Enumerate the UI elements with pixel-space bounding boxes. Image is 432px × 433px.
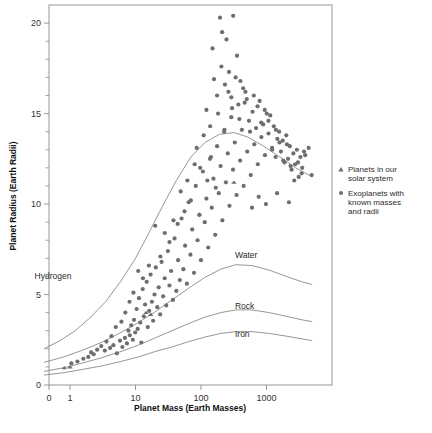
exoplanet-point	[236, 102, 240, 106]
exoplanet-point	[114, 325, 118, 329]
exoplanet-point	[297, 175, 301, 179]
exoplanet-point	[179, 189, 183, 193]
exoplanet-point	[209, 155, 213, 159]
y-tick-label: 15	[31, 109, 41, 119]
exoplanet-point	[287, 200, 291, 204]
y-tick-label: 0	[36, 380, 41, 390]
exoplanet-point	[303, 153, 307, 157]
exoplanet-point	[150, 300, 154, 304]
exoplanet-point	[203, 220, 207, 224]
exoplanet-point	[272, 124, 276, 128]
exoplanet-point	[147, 309, 151, 313]
tick-labels: 0510152001101001000	[31, 18, 277, 403]
legend-circle-icon	[339, 191, 343, 195]
exoplanet-point	[126, 329, 130, 333]
exoplanet-point	[167, 283, 171, 287]
exoplanet-point	[125, 341, 129, 345]
exoplanet-point	[266, 131, 270, 135]
exoplanet-point	[252, 142, 256, 146]
exoplanet-point	[222, 128, 226, 132]
exoplanet-point	[75, 359, 79, 363]
exoplanet-point	[220, 218, 224, 222]
x-tick-label: 100	[193, 393, 208, 403]
exoplanet-point	[224, 37, 228, 41]
exoplanet-point	[243, 90, 247, 94]
exoplanet-point	[154, 265, 158, 269]
exoplanet-point	[158, 254, 162, 258]
exoplanet-point	[204, 108, 208, 112]
exoplanet-point	[298, 155, 302, 159]
exoplanet-point	[270, 148, 274, 152]
exoplanet-point	[216, 111, 220, 115]
exoplanet-point	[295, 148, 299, 152]
plot-frame	[49, 5, 332, 385]
x-tick-label: 1000	[256, 393, 276, 403]
exoplanet-point	[274, 128, 278, 132]
exoplanet-point	[115, 351, 119, 355]
exoplanet-point	[291, 151, 295, 155]
exoplanet-point	[231, 14, 235, 18]
exoplanet-point	[212, 77, 216, 81]
exoplanet-point	[215, 93, 219, 97]
exoplanet-point	[258, 99, 262, 103]
exoplanet-point	[224, 180, 228, 184]
exoplanet-point	[198, 166, 202, 170]
exoplanet-point	[123, 311, 127, 315]
exoplanet-point	[263, 153, 267, 157]
exoplanet-point	[264, 202, 268, 206]
exoplanet-point	[275, 191, 279, 195]
exoplanet-point	[208, 124, 212, 128]
exoplanet-point	[265, 111, 269, 115]
exoplanet-point	[176, 258, 180, 262]
exoplanet-point	[245, 97, 249, 101]
exoplanet-point	[300, 166, 304, 170]
exoplanet-point	[119, 320, 123, 324]
exoplanet-point	[131, 338, 135, 342]
exoplanet-point	[195, 146, 199, 150]
exoplanet-point	[242, 184, 246, 188]
exoplanet-point	[159, 260, 163, 264]
exoplanet-point	[128, 333, 132, 337]
exoplanet-point	[133, 330, 137, 334]
exoplanet-point	[259, 121, 263, 125]
exoplanet-point	[252, 93, 256, 97]
exoplanet-point	[263, 108, 267, 112]
exoplanet-point	[307, 146, 311, 150]
exoplanet-point	[148, 273, 152, 277]
y-tick-label: 10	[31, 199, 41, 209]
axis-ticks	[44, 23, 267, 390]
exoplanet-point	[155, 305, 159, 309]
curve-hydrogen	[44, 133, 312, 349]
exoplanet-point	[254, 126, 258, 130]
exoplanet-point	[131, 291, 135, 295]
exoplanet-point	[153, 224, 157, 228]
exoplanet-point	[158, 312, 162, 316]
exoplanet-point	[210, 46, 214, 50]
exoplanet-point	[211, 177, 215, 181]
exoplanet-point	[206, 245, 210, 249]
exoplanet-point	[205, 178, 209, 182]
exoplanet-point	[129, 323, 133, 327]
exoplanet-point	[245, 149, 249, 153]
exoplanet-point	[266, 119, 270, 123]
exoplanet-point	[152, 292, 156, 296]
exoplanet-point	[178, 278, 182, 282]
exoplanet-point	[120, 345, 124, 349]
curve-label-iron: Iron	[235, 329, 250, 339]
exoplanet-point	[227, 204, 231, 208]
exoplanet-point	[111, 343, 115, 347]
exoplanet-point	[104, 339, 108, 343]
exoplanet-point	[194, 184, 198, 188]
exoplanet-point	[281, 159, 285, 163]
exoplanet-point	[179, 216, 183, 220]
exoplanet-point	[230, 106, 234, 110]
exoplanet-point	[163, 231, 167, 235]
exoplanet-point	[215, 144, 219, 148]
legend-label-solar-system: solar system	[348, 174, 393, 183]
exoplanet-point	[172, 236, 176, 240]
exoplanet-point	[161, 294, 165, 298]
curve-label-rock: Rock	[235, 301, 255, 311]
exoplanet-point	[118, 339, 122, 343]
exoplanet-point	[213, 233, 217, 237]
exoplanet-point	[86, 355, 90, 359]
